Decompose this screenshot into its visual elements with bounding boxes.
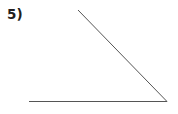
angle-diagram (0, 0, 178, 114)
worksheet-figure: 5) (0, 0, 178, 114)
diagonal-ray (78, 10, 167, 102)
